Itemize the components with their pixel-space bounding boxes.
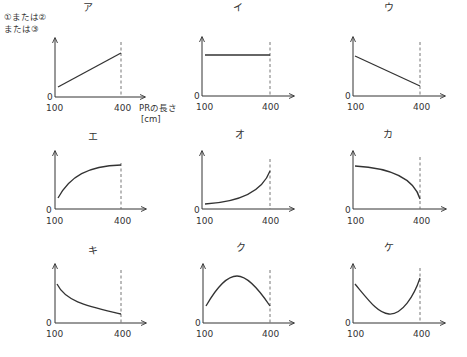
x-end-label: 400 xyxy=(413,216,430,226)
origin-label: 0 xyxy=(46,318,52,328)
panel-title: エ xyxy=(88,131,98,142)
graph-grid-figure: ア ①または② または③ 0 100 400 PRの長さ [cm] イ 0 10… xyxy=(0,0,467,357)
origin-label: 0 xyxy=(195,318,201,328)
x-end-label: 400 xyxy=(114,329,131,339)
panel-title: カ xyxy=(383,129,393,140)
panel-u: ウ 0 100 400 xyxy=(345,2,445,112)
panel-ke: ケ 0 100 400 xyxy=(345,242,445,339)
origin-label: 0 xyxy=(345,205,351,215)
x-start-label: 100 xyxy=(46,216,63,226)
origin-label: 0 xyxy=(345,318,351,328)
graph-curve xyxy=(205,171,270,204)
origin-label: 0 xyxy=(345,91,351,101)
panel-a: ア ①または② または③ 0 100 400 PRの長さ [cm] xyxy=(4,2,177,124)
graph-curve xyxy=(355,166,420,199)
panel-e: エ 0 100 400 xyxy=(46,131,146,226)
panel-ki: キ 0 100 400 xyxy=(46,245,146,339)
x-end-label: 400 xyxy=(413,102,430,112)
x-axis-label-line1: PRの長さ xyxy=(139,103,177,113)
graph-curve xyxy=(57,284,121,314)
graph-curve xyxy=(355,278,420,314)
x-end-label: 400 xyxy=(413,329,430,339)
origin-label: 0 xyxy=(47,92,53,102)
x-start-label: 100 xyxy=(46,329,63,339)
origin-label: 0 xyxy=(194,91,200,101)
x-start-label: 100 xyxy=(347,102,364,112)
x-start-label: 100 xyxy=(196,102,213,112)
panel-title: キ xyxy=(88,245,98,256)
panel-title: ク xyxy=(236,242,246,253)
origin-label: 0 xyxy=(194,205,200,215)
x-end-label: 400 xyxy=(262,216,279,226)
panel-title: イ xyxy=(233,2,243,13)
panel-i: イ 0 100 400 xyxy=(194,2,294,112)
panel-title: オ xyxy=(235,129,245,140)
panel-ka: カ 0 100 400 xyxy=(345,129,446,226)
panel-title: ア xyxy=(83,2,93,13)
graph-curve xyxy=(58,165,121,198)
x-start-label: 100 xyxy=(196,216,213,226)
graph-line xyxy=(58,53,121,87)
x-start-label: 100 xyxy=(347,216,364,226)
x-end-label: 400 xyxy=(114,216,131,226)
y-axis-label-line1: ①または② xyxy=(4,12,46,22)
x-axis-label-line2: [cm] xyxy=(141,114,161,124)
x-end-label: 400 xyxy=(262,329,279,339)
x-start-label: 100 xyxy=(196,329,213,339)
graph-line xyxy=(355,56,420,86)
graph-curve xyxy=(206,276,270,306)
y-axis-label-line2: または③ xyxy=(4,24,39,34)
panel-title: ウ xyxy=(384,2,394,13)
x-start-label: 100 xyxy=(347,329,364,339)
origin-label: 0 xyxy=(46,205,52,215)
panel-o: オ 0 100 400 xyxy=(194,129,294,226)
x-start-label: 100 xyxy=(46,103,63,113)
panel-title: ケ xyxy=(384,242,394,253)
panel-ku: ク 0 100 400 xyxy=(195,242,294,339)
x-end-label: 400 xyxy=(114,103,131,113)
x-end-label: 400 xyxy=(262,102,279,112)
